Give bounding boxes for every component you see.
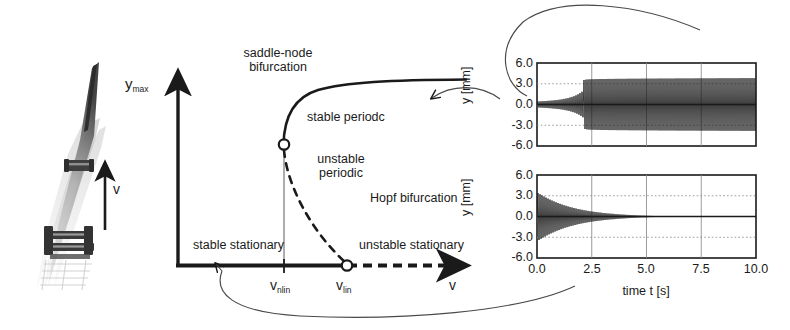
saddle-node-line-2: bifurcation <box>218 60 338 74</box>
specimen-illustration <box>36 62 106 292</box>
v-nlin-tick-label: vnlin <box>270 278 290 294</box>
xtick-10: 10.0 <box>737 262 775 276</box>
xtick-7p5: 7.5 <box>686 262 716 276</box>
xtick-0: 0.0 <box>522 262 552 276</box>
x-axis-label: v <box>449 278 456 294</box>
stable-stationary-annotation: stable stationary <box>193 238 284 252</box>
stable-periodic-annotation: stable periodc <box>307 110 385 124</box>
figure-graphics <box>0 0 790 330</box>
bottom-plot-ytick-0: 0.0 <box>501 209 533 223</box>
unstable-stationary-annotation: unstable stationary <box>359 238 464 252</box>
top-plot-ytick-neg6: -6.0 <box>497 138 533 152</box>
saddle-node-annotation: saddle-node bifurcation <box>218 46 338 74</box>
upper-clamp <box>64 159 94 172</box>
specimen-velocity-label: v <box>113 182 120 198</box>
top-plot-ytick-neg3: -3.0 <box>497 118 533 132</box>
unstable-periodic-line-2: periodic <box>300 166 382 180</box>
bottom-time-series-plot <box>537 175 756 258</box>
y-axis-label: ymax <box>125 76 149 93</box>
v-nlin-main: v <box>270 277 277 293</box>
v-lin-tick-label: vlin <box>336 278 352 294</box>
top-time-series-plot <box>537 63 756 146</box>
y-axis-label-sub: max <box>133 84 149 94</box>
bottom-plot-ytick-neg3: -3.0 <box>497 230 533 244</box>
bottom-plot-ytick-6: 6.0 <box>501 168 533 182</box>
unstable-periodic-line-1: unstable <box>300 152 382 166</box>
unstable-periodic-annotation: unstable periodic <box>300 152 382 180</box>
saddle-node-point-marker <box>279 139 289 149</box>
v-nlin-sub: nlin <box>277 285 290 295</box>
top-plot-ytick-6: 6.0 <box>501 56 533 70</box>
hopf-point-marker <box>342 260 352 270</box>
y-axis-label-main: y <box>125 75 133 92</box>
top-plot-ylabel: y [mm] <box>459 67 473 105</box>
xaxis-label: time t [s] <box>586 284 706 298</box>
top-plot-ytick-0: 0.0 <box>501 97 533 111</box>
bottom-plot-ylabel: y [mm] <box>459 179 473 217</box>
xtick-5: 5.0 <box>631 262 661 276</box>
hopf-bifurcation-annotation: Hopf bifurcation <box>370 191 458 205</box>
figure-root: ymax v saddle-node bifurcation stable pe… <box>0 0 790 330</box>
saddle-node-line-1: saddle-node <box>218 46 338 60</box>
v-lin-main: v <box>336 277 343 293</box>
xtick-2p5: 2.5 <box>577 262 607 276</box>
top-plot-ytick-3: 3.0 <box>501 76 533 90</box>
v-lin-sub: lin <box>343 285 352 295</box>
bottom-plot-ytick-3: 3.0 <box>501 188 533 202</box>
